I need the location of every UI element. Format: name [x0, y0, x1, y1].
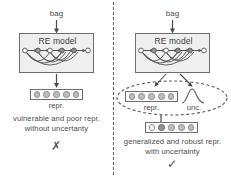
cross-mark-icon: ✗	[0, 142, 113, 151]
repr-cell	[53, 91, 59, 97]
repr-cell	[34, 91, 40, 97]
right-caption-line2: with uncertainty	[116, 147, 229, 157]
output-cell	[168, 124, 174, 130]
repr-cell	[148, 93, 154, 99]
right-repr-box	[125, 91, 178, 102]
check-mark-icon: ✓	[114, 160, 231, 169]
repr-cell	[63, 91, 69, 97]
right-output-box	[145, 122, 198, 133]
repr-cell	[168, 93, 174, 99]
left-repr-label: repr.	[0, 101, 113, 110]
output-cell	[188, 124, 194, 130]
right-repr-label: repr.	[125, 103, 178, 112]
left-caption-line2: without uncertanty	[2, 124, 111, 134]
figure-root: bag RE model	[0, 0, 231, 177]
repr-cell	[129, 93, 135, 99]
uncertainty-label: unc.	[178, 103, 210, 112]
left-repr-box	[30, 89, 83, 100]
repr-cell	[73, 91, 79, 97]
output-cell	[158, 124, 164, 130]
output-cell	[178, 124, 184, 130]
right-caption-line1: generalized and robust repr.	[116, 137, 229, 147]
repr-cell	[158, 93, 164, 99]
left-caption-line1: vulnerable and poor repr.	[2, 114, 111, 124]
repr-cell	[138, 93, 144, 99]
panel-left: bag RE model	[0, 0, 113, 177]
output-cell	[149, 124, 155, 130]
panel-right: bag RE model	[114, 0, 231, 177]
repr-cell	[43, 91, 49, 97]
